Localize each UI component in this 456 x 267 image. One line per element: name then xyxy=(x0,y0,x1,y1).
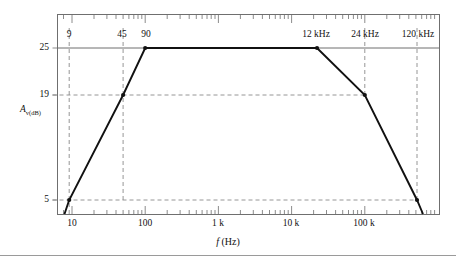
y-axis-title: Av(dB) xyxy=(20,104,41,116)
x-tick-label-10k: 10 k xyxy=(283,219,300,229)
x-tick-label-1k: 1 k xyxy=(212,219,224,229)
annotation-label-45hz: 45 xyxy=(117,30,127,40)
y-axis-title-subscript: v(dB) xyxy=(26,109,41,116)
data-point-90hz xyxy=(143,46,147,50)
data-point-45hz xyxy=(121,93,125,97)
frequency-response-figure: 9 45 90 12 kHz 24 kHz 120 kHz 25 19 5 Av… xyxy=(0,0,456,267)
annotation-label-120khz: 120 kHz xyxy=(402,30,434,40)
data-point-120khz xyxy=(415,198,419,202)
x-tick-label-10: 10 xyxy=(67,219,77,229)
y-tick-label-19: 19 xyxy=(40,90,50,100)
y-tick-label-5: 5 xyxy=(44,195,49,205)
plot-frame xyxy=(58,15,440,215)
annotation-label-90hz: 90 xyxy=(141,30,151,40)
y-axis-ticks xyxy=(53,48,58,200)
annotation-label-12khz: 12 kHz xyxy=(302,30,330,40)
annotation-label-9hz: 9 xyxy=(67,30,72,40)
x-axis-title: f (Hz) xyxy=(216,236,240,247)
data-point-12khz xyxy=(315,46,319,50)
x-tick-label-100: 100 xyxy=(138,219,152,229)
x-axis-title-unit: (Hz) xyxy=(221,236,239,247)
data-point-9hz xyxy=(67,198,71,202)
x-tick-label-100k: 100 k xyxy=(353,219,374,229)
y-tick-label-25: 25 xyxy=(40,43,50,53)
data-point-24khz xyxy=(363,93,367,97)
bottom-separator-rule xyxy=(0,255,456,256)
annotation-label-24khz: 24 kHz xyxy=(351,30,379,40)
x-axis-title-symbol: f xyxy=(216,236,219,247)
